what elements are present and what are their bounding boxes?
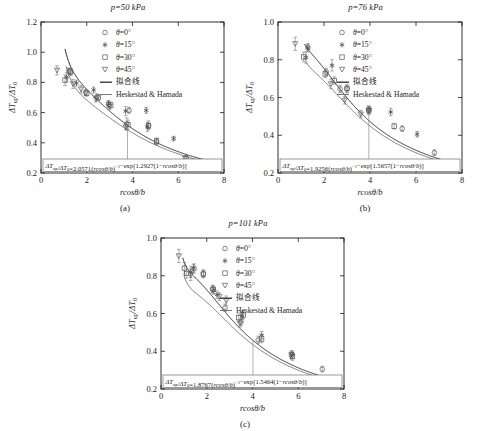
series-1 [306, 44, 437, 156]
y-axis-title: ΔTup/ΔT0 [7, 82, 18, 114]
x-tick-label: 2 [85, 175, 89, 185]
svg-text:ΔTup/ΔT0: ΔTup/ΔT0 [7, 82, 18, 114]
y-tick-label: 0.6 [146, 309, 157, 319]
x-tick-label: 8 [222, 175, 226, 185]
panel-b-title-text: p=76 kPa [348, 2, 383, 12]
x-tick-label: 4 [368, 175, 373, 185]
y-tick-label: 0.6 [26, 108, 37, 118]
legend-label: 拟合线 [236, 292, 260, 302]
y-tick-label: 1.0 [146, 233, 157, 243]
y-tick-label: 0.6 [263, 93, 274, 103]
legend-label: θ=15○ [116, 39, 135, 49]
panel-a-title: p=50 kPa [8, 2, 248, 12]
legend-label: θ=15○ [236, 255, 255, 265]
y-tick-label: 0.4 [263, 130, 274, 140]
x-tick-label: 0 [276, 175, 280, 185]
x-tick-label: 8 [342, 391, 346, 401]
y-tick-label: 1.0 [263, 17, 274, 27]
svg-text:ΔTup/ΔT0: ΔTup/ΔT0 [244, 82, 255, 114]
panel-a-plot: 024680.20.40.60.81.01.2rcosθ/bΔTup/ΔT0θ=… [0, 2, 240, 202]
legend-label: θ=30○ [236, 268, 255, 278]
legend-label: θ=45○ [236, 280, 255, 290]
panel-c-label-text: (c) [240, 419, 250, 429]
panel-b-title: p=76 kPa [246, 2, 479, 12]
y-axis-title: ΔTup/ΔT0 [244, 82, 255, 114]
legend-label: θ=30○ [353, 52, 372, 62]
x-tick-label: 6 [176, 175, 180, 185]
legend-label: 拟合线 [353, 76, 377, 86]
y-tick-label: 0.2 [146, 384, 157, 394]
y-tick-label: 1.0 [26, 47, 37, 57]
panel-a-title-text: p=50 kPa [111, 2, 146, 12]
panel-a-label: (a) [100, 203, 150, 213]
legend-label: θ=45○ [116, 64, 135, 74]
legend-label: θ=45○ [353, 64, 372, 74]
x-tick-label: 6 [414, 175, 418, 185]
y-tick-label: 1.2 [26, 17, 37, 27]
panel-a-label-text: (a) [120, 203, 130, 213]
panel-b-label-text: (b) [360, 203, 371, 213]
legend-label: θ=0○ [353, 27, 368, 37]
legend-label: θ=15○ [353, 39, 372, 49]
legend-label: Heskestad & Hamada [353, 90, 420, 99]
panel-c-plot: 024680.20.40.60.81.0rcosθ/bΔTup/ΔT0θ=0○θ… [120, 218, 360, 418]
x-tick-label: 2 [205, 391, 209, 401]
legend: θ=0○θ=15○θ=30○θ=45○拟合线Heskestad & Hamada [220, 243, 303, 315]
panel-c-label: (c) [220, 419, 270, 429]
y-tick-label: 0.2 [263, 168, 274, 178]
panel-a: p=50 kPa 024680.20.40.60.81.01.2rcosθ/bΔ… [0, 2, 240, 202]
series-1 [192, 264, 325, 372]
y-tick-label: 0.8 [263, 55, 274, 65]
heskestad-hamada-curve [184, 275, 324, 378]
legend-label: θ=30○ [116, 52, 135, 62]
x-tick-label: 4 [250, 391, 255, 401]
legend: θ=0○θ=15○θ=30○θ=45○拟合线Heskestad & Hamada [100, 27, 183, 99]
x-tick-label: 2 [322, 175, 326, 185]
legend-label: θ=0○ [236, 243, 251, 253]
x-tick-label: 0 [39, 175, 43, 185]
x-tick-label: 0 [159, 391, 163, 401]
panel-b-label: (b) [340, 203, 390, 213]
x-tick-label: 4 [130, 175, 135, 185]
fit-curve [304, 44, 443, 160]
x-axis-title: rcosθ/b [120, 187, 145, 197]
legend-label: Heskestad & Hamada [116, 90, 183, 99]
legend-label: 拟合线 [116, 76, 140, 86]
legend-label: Heskestad & Hamada [236, 306, 303, 315]
svg-text:ΔTup/ΔT0: ΔTup/ΔT0 [127, 298, 138, 330]
panel-b: p=76 kPa 024680.20.40.60.81.0rcosθ/bΔTup… [240, 2, 479, 202]
x-axis-title: rcosθ/b [240, 403, 265, 413]
panel-c-title-text: p=101 kPa [229, 218, 268, 228]
fit-curve [65, 49, 205, 160]
x-tick-label: 8 [460, 175, 464, 185]
panel-c: p=101 kPa 024680.20.40.60.81.0rcosθ/bΔTu… [120, 218, 360, 418]
legend-label: θ=0○ [116, 27, 131, 37]
panel-b-plot: 024680.20.40.60.81.0rcosθ/bΔTup/ΔT0θ=0○θ… [240, 2, 479, 202]
series-3 [63, 68, 159, 144]
y-axis-title: ΔTup/ΔT0 [127, 298, 138, 330]
y-tick-label: 0.2 [26, 168, 37, 178]
y-tick-label: 0.4 [146, 346, 157, 356]
x-axis-title: rcosθ/b [357, 187, 382, 197]
y-tick-label: 0.8 [26, 77, 37, 87]
x-tick-label: 6 [296, 391, 300, 401]
panel-c-title: p=101 kPa [128, 218, 368, 228]
y-tick-label: 0.4 [26, 138, 37, 148]
y-tick-label: 0.8 [146, 271, 157, 281]
